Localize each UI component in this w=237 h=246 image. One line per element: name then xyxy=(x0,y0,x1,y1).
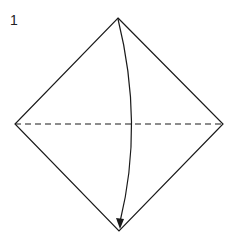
origami-diagram xyxy=(0,0,237,246)
fold-arrow-curve xyxy=(118,19,132,222)
